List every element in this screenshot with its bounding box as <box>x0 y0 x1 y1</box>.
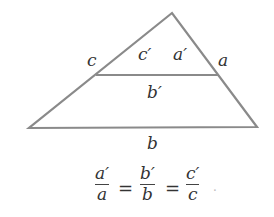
fraction-c: c′ c <box>186 165 199 204</box>
numerator: c′ <box>186 165 199 183</box>
fraction-a: a′ a <box>95 165 109 204</box>
period: . <box>213 180 217 194</box>
equals-sign: = <box>118 178 133 199</box>
denominator: b <box>142 186 153 204</box>
denominator: c <box>188 186 198 204</box>
label-c-prime: c′ <box>138 46 151 63</box>
label-c: c <box>87 52 97 69</box>
numerator: a′ <box>95 165 109 183</box>
label-a: a <box>218 52 228 69</box>
fraction-b: b′ b <box>140 165 155 204</box>
label-a-prime: a′ <box>173 46 187 63</box>
label-b-prime: b′ <box>147 84 162 101</box>
outer-triangle <box>29 13 257 128</box>
denominator: a <box>97 186 107 204</box>
label-b: b <box>147 135 158 152</box>
numerator: b′ <box>140 165 155 183</box>
equals-sign: = <box>165 178 180 199</box>
triangle-figure <box>0 0 274 217</box>
